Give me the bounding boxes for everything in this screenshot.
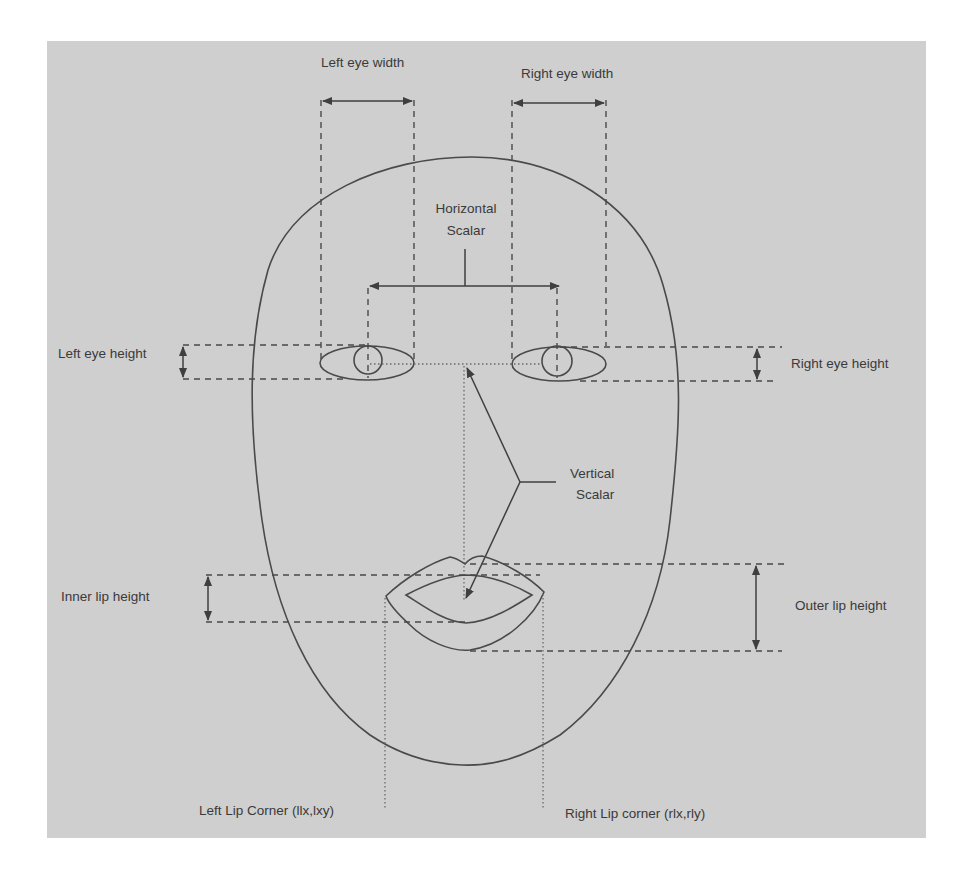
right-eye-height-label: Right eye height — [791, 356, 889, 371]
left-eye-width-label: Left eye width — [321, 55, 404, 70]
outer-lip-height-label: Outer lip height — [795, 598, 887, 613]
left-eye-icon — [320, 346, 414, 380]
right-pupil-icon — [542, 346, 572, 376]
right-lip-corner-label: Right Lip corner (rlx,rly) — [565, 806, 705, 821]
vertical-scalar-arrow-up — [467, 368, 520, 482]
horizontal-scalar-label: Horizontal — [436, 201, 497, 216]
right-eye-width-label: Right eye width — [521, 66, 613, 81]
horizontal-scalar-label-2: Scalar — [447, 223, 486, 238]
left-lip-corner-label: Left Lip Corner (llx,lxy) — [199, 803, 334, 818]
face-diagram: Left eye width Right eye width Horizonta… — [0, 0, 961, 883]
vertical-scalar-arrow-down — [466, 482, 520, 598]
face-outline — [252, 157, 678, 765]
vertical-scalar-label: Vertical — [570, 466, 614, 481]
left-eye-height-label: Left eye height — [58, 346, 147, 361]
vertical-scalar-label-2: Scalar — [576, 487, 615, 502]
inner-lips — [406, 575, 532, 623]
inner-lip-height-label: Inner lip height — [61, 589, 150, 604]
